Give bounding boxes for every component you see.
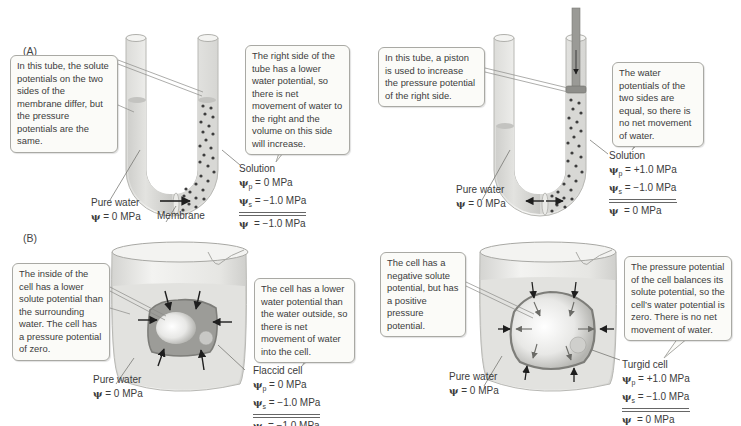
beaker-turgid — [466, 242, 620, 391]
membrane-label: Membrane — [157, 209, 205, 222]
turgid-cell-label: Turgid cell — [622, 358, 668, 371]
turgid-cell-icon — [511, 292, 595, 369]
pure-water-label: Pure water — [449, 370, 497, 383]
callout-equal-potentials: The water potentials of the two sides ar… — [612, 62, 704, 147]
pure-water-psi: ψ = 0 MPa — [91, 210, 141, 224]
callout-piston: In this tube, a piston is used to increa… — [378, 47, 485, 107]
callout-right-side-lower-potential: The right side of the tube has a lower w… — [245, 45, 350, 155]
callout-net-movement-into-cell: The cell has a lower water potential tha… — [254, 278, 355, 363]
pure-water-psi: ψ = 0 MPa — [456, 197, 506, 211]
u-tube-left — [110, 35, 240, 223]
water-potential-equation: ψp = 0 MPa ψs = −1.0 MPa ψ = −1.0 MPa — [239, 176, 306, 231]
callout-balanced-potential: The pressure potential of the cell balan… — [624, 256, 732, 341]
membrane-icon — [542, 193, 548, 215]
pure-water-label: Pure water — [93, 373, 141, 386]
pure-water-psi: ψ = 0 MPa — [449, 384, 499, 398]
beaker-flaccid — [110, 242, 248, 391]
water-potential-equation: ψp = +1.0 MPa ψs = −1.0 MPa ψ = 0 MPa — [609, 163, 677, 218]
pure-water-label: Pure water — [456, 183, 504, 196]
water-potential-equation: ψp = +1.0 MPa ψs = −1.0 MPa ψ = 0 MPa — [622, 372, 690, 426]
flaccid-cell-label: Flaccid cell — [253, 364, 302, 377]
solution-label: Solution — [239, 162, 275, 175]
panel-label-b: (B) — [23, 232, 37, 244]
water-potential-equation: ψp = 0 MPa ψs = −1.0 MPa ψ = −1.0 MPa — [253, 378, 320, 426]
callout-solute-potentials-differ: In this tube, the solute potentials on t… — [10, 55, 118, 153]
callout-positive-pressure: The cell has a negative solute potential… — [380, 252, 466, 337]
callout-lower-solute-potential: The inside of the cell has a lower solut… — [12, 263, 110, 361]
pure-water-label: Pure water — [91, 196, 139, 209]
pure-water-psi: ψ = 0 MPa — [93, 387, 143, 401]
solution-label: Solution — [609, 149, 645, 162]
